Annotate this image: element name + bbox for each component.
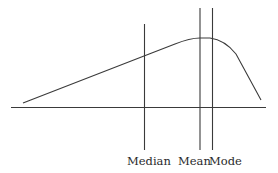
skewed-distribution-diagram: Median Mean Mode xyxy=(0,0,278,173)
median-label: Median xyxy=(127,154,171,168)
mean-label: Mean xyxy=(178,154,211,168)
distribution-curve xyxy=(23,38,261,103)
mode-label: Mode xyxy=(209,154,242,168)
